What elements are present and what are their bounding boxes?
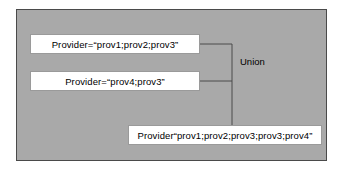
output-node-label: Provider“prov1;prov2;prov3;prov3;prov4”	[138, 130, 313, 141]
input-node-2-label: Provider=“prov4;prov3”	[65, 76, 165, 87]
input-node-1: Provider=“prov1;prov2;prov3”	[30, 34, 200, 54]
union-operation-label: Union	[240, 56, 265, 67]
input-node-1-label: Provider=“prov1;prov2;prov3”	[52, 39, 179, 50]
provider-union-diagram: Provider=“prov1;prov2;prov3” Provider=“p…	[0, 0, 345, 175]
input-node-2: Provider=“prov4;prov3”	[30, 71, 200, 91]
output-node: Provider“prov1;prov2;prov3;prov3;prov4”	[128, 125, 322, 145]
